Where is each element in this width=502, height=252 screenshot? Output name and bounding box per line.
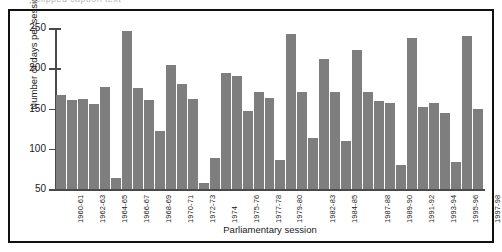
x-tick-label: 1966-67 — [142, 195, 151, 223]
bar — [210, 158, 221, 189]
bar — [243, 111, 254, 189]
bar — [396, 165, 407, 189]
bar — [111, 178, 122, 189]
bar — [155, 131, 166, 189]
bar — [374, 101, 385, 189]
bar — [67, 100, 78, 189]
bar — [407, 38, 418, 189]
x-tick-label: 1991-92 — [427, 195, 436, 223]
bar — [352, 50, 363, 189]
bar — [341, 141, 352, 189]
bar — [254, 92, 265, 189]
x-tick-label: 1970-71 — [186, 195, 195, 223]
x-tick-label: 1982-83 — [328, 195, 337, 223]
bar — [221, 73, 232, 189]
bar — [297, 92, 308, 189]
bar — [385, 103, 396, 189]
bar — [133, 88, 144, 189]
x-tick-label: 1977-78 — [274, 195, 283, 223]
bar — [166, 65, 177, 189]
x-tick-label: 1984-85 — [350, 195, 359, 223]
x-tick-label: 1979-80 — [295, 195, 304, 223]
x-tick-label: 1968-69 — [164, 195, 173, 223]
y-tick-label: 50 — [35, 183, 46, 194]
clipped-caption-text: clipped caption text — [36, 0, 121, 4]
x-tick-label: 1975-76 — [252, 195, 261, 223]
bar — [78, 99, 89, 189]
x-tick-label: 1987-88 — [383, 195, 392, 223]
y-tick-label: 250 — [29, 22, 46, 33]
x-tick-label: 1974 — [230, 206, 239, 223]
bar — [308, 138, 319, 189]
bar — [429, 103, 440, 189]
bar — [56, 95, 67, 189]
y-tick-label: 200 — [29, 62, 46, 73]
bar — [319, 59, 330, 189]
bar — [265, 98, 276, 189]
x-tick-label: 1972-73 — [208, 195, 217, 223]
bar — [418, 107, 429, 189]
y-tick-label: 100 — [29, 143, 46, 154]
bar — [473, 109, 484, 190]
bar — [363, 92, 374, 189]
x-tick-label: 1960-61 — [76, 195, 85, 223]
chart-bar-days-per-session: Number of days per session 5010015020025… — [10, 11, 492, 241]
bar — [232, 76, 243, 189]
x-tick-label: 1989-90 — [405, 195, 414, 223]
x-axis-title: Parliamentary session — [56, 224, 484, 235]
bar — [100, 87, 111, 189]
bar — [122, 31, 133, 189]
x-tick-label: 1993-94 — [449, 195, 458, 223]
bar — [89, 104, 100, 189]
plot-area — [56, 28, 484, 189]
bar — [177, 84, 188, 189]
y-tick-label: 150 — [29, 103, 46, 114]
clipped-caption-strip: clipped caption text — [0, 0, 502, 9]
x-tick-label: 1962-63 — [98, 195, 107, 223]
bar — [462, 36, 473, 189]
bar — [275, 160, 286, 189]
x-tick-label: 1997-98 — [493, 195, 502, 223]
x-tick-label: 1995-96 — [471, 195, 480, 223]
bar — [188, 99, 199, 189]
figure-frame: Number of days per session 5010015020025… — [8, 9, 494, 243]
bar — [451, 162, 462, 189]
bar — [330, 92, 341, 189]
bar — [440, 113, 451, 189]
x-tick-label: 1964-65 — [120, 195, 129, 223]
bar — [286, 34, 297, 189]
bar — [144, 100, 155, 189]
